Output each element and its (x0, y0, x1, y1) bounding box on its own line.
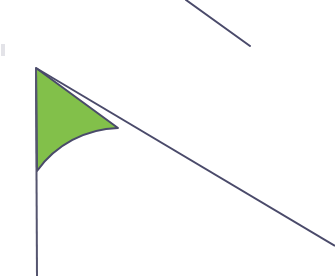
vertical-left-ray (36, 68, 37, 276)
faint-left-edge-mark (1, 44, 5, 56)
geometry-figure: Angle sector diagram A green filled circ… (0, 0, 335, 276)
diagram-canvas: Angle sector diagram A green filled circ… (0, 0, 335, 276)
